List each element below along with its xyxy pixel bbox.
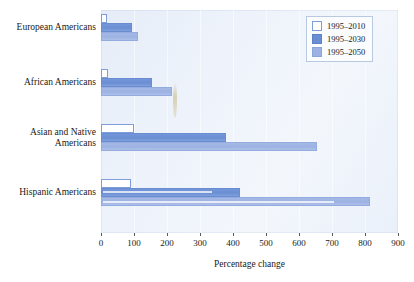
bar: [101, 78, 152, 87]
category-axis-labels: European AmericansAfrican AmericansAsian…: [0, 0, 98, 282]
bar: [101, 32, 138, 41]
legend-item-1995-2050: 1995–2050: [312, 47, 365, 57]
bar: [101, 87, 172, 96]
x-axis-tick: [398, 233, 399, 236]
legend-item-1995-2010: 1995–2010: [312, 21, 365, 31]
bar: [101, 69, 108, 78]
category-label-line: Asian and Native: [0, 127, 96, 138]
x-axis-title: Percentage change: [101, 259, 398, 269]
bar-chart-figure: European AmericansAfrican AmericansAsian…: [0, 0, 414, 282]
legend: 1995–2010 1995–2030 1995–2050: [306, 16, 373, 62]
x-axis-tick: [167, 233, 168, 236]
legend-label-1995-2010: 1995–2010: [327, 21, 365, 31]
x-axis-tick-label: 600: [292, 238, 306, 248]
x-axis-tick-label: 400: [226, 238, 240, 248]
legend-label-1995-2050: 1995–2050: [327, 47, 365, 57]
legend-swatch-icon-1995-2030: [312, 34, 322, 44]
x-axis-tick-label: 700: [325, 238, 339, 248]
bar: [101, 133, 226, 142]
x-axis-tick: [332, 233, 333, 236]
x-axis-tick-label: 500: [259, 238, 273, 248]
category-label-line: Americans: [0, 138, 96, 149]
category-label: African Americans: [0, 77, 96, 88]
x-axis-tick: [299, 233, 300, 236]
legend-label-1995-2030: 1995–2030: [327, 34, 365, 44]
legend-item-1995-2030: 1995–2030: [312, 34, 365, 44]
category-label-line: Hispanic Americans: [0, 187, 96, 198]
category-label: Hispanic Americans: [0, 187, 96, 198]
legend-swatch-icon-1995-2050: [312, 47, 322, 57]
bar: [101, 23, 132, 32]
scan-artifact: [173, 82, 177, 118]
category-label-line: European Americans: [0, 22, 96, 33]
x-axis-tick-label: 200: [160, 238, 174, 248]
category-label-line: African Americans: [0, 77, 96, 88]
gridline: [398, 10, 399, 233]
x-axis-tick-label: 300: [193, 238, 207, 248]
category-label: European Americans: [0, 22, 96, 33]
bar: [101, 179, 131, 188]
x-axis-tick-label: 900: [391, 238, 405, 248]
x-axis-tick: [200, 233, 201, 236]
x-axis-tick: [134, 233, 135, 236]
bar: [101, 188, 240, 197]
x-axis-tick-label: 800: [358, 238, 372, 248]
x-axis-tick-label: 0: [99, 238, 104, 248]
legend-swatch-icon-1995-2010: [312, 21, 322, 31]
bar: [101, 14, 107, 23]
x-axis: 0100200300400500600700800900: [101, 233, 398, 234]
bar: [101, 142, 317, 151]
bar: [101, 124, 134, 133]
bar: [101, 197, 370, 206]
x-axis-tick: [365, 233, 366, 236]
x-axis-tick-label: 100: [127, 238, 141, 248]
category-label: Asian and NativeAmericans: [0, 127, 96, 149]
x-axis-tick: [233, 233, 234, 236]
x-axis-tick: [101, 233, 102, 236]
x-axis-tick: [266, 233, 267, 236]
